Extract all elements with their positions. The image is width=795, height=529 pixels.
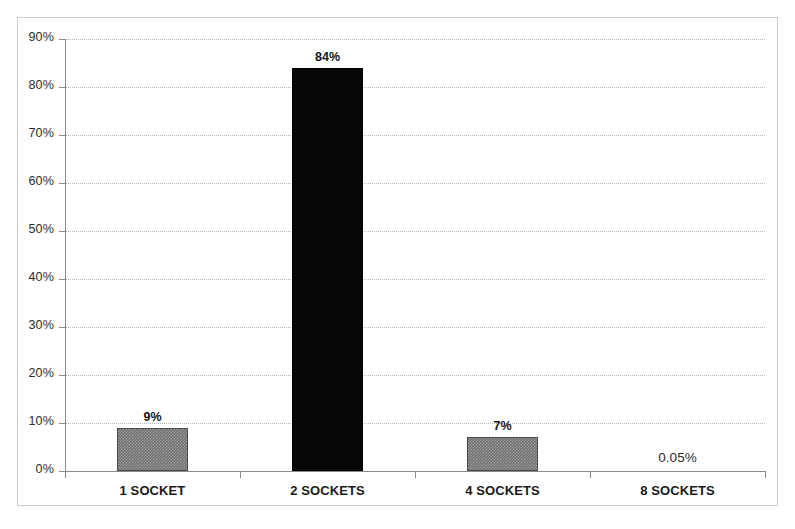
y-tick-label: 80% [8, 78, 54, 92]
gridline [65, 327, 765, 328]
x-tick-mark [415, 471, 416, 478]
bar-value-label: 9% [93, 410, 213, 424]
x-axis-category-label: 4 SOCKETS [423, 483, 583, 498]
gridline [65, 87, 765, 88]
y-tick-label: 10% [8, 414, 54, 428]
y-axis-line [65, 39, 66, 472]
bar-value-label: 84% [268, 50, 388, 64]
y-tick-mark [59, 231, 66, 232]
y-tick-label: 90% [8, 30, 54, 44]
y-tick-label: 0% [8, 462, 54, 476]
y-tick-label: 40% [8, 270, 54, 284]
x-axis-category-label: 2 SOCKETS [248, 483, 408, 498]
y-tick-label: 70% [8, 126, 54, 140]
gridline [65, 183, 765, 184]
x-axis-category-label: 8 SOCKETS [598, 483, 758, 498]
gridline [65, 39, 765, 40]
y-tick-mark [59, 423, 66, 424]
bar [467, 437, 538, 471]
x-tick-mark [590, 471, 591, 478]
y-tick-mark [59, 39, 66, 40]
bar [117, 428, 188, 471]
y-tick-label: 50% [8, 222, 54, 236]
gridline [65, 135, 765, 136]
bar [292, 68, 363, 471]
y-tick-mark [59, 327, 66, 328]
bar-value-label: 7% [443, 419, 563, 433]
y-tick-mark [59, 183, 66, 184]
x-tick-mark [65, 471, 66, 478]
y-tick-label: 60% [8, 174, 54, 188]
y-tick-mark [59, 87, 66, 88]
gridline [65, 279, 765, 280]
x-tick-mark [240, 471, 241, 478]
x-axis-category-label: 1 SOCKET [73, 483, 233, 498]
gridline [65, 375, 765, 376]
y-tick-mark [59, 135, 66, 136]
y-tick-label: 30% [8, 318, 54, 332]
x-tick-mark [765, 471, 766, 478]
y-tick-label: 20% [8, 366, 54, 380]
chart-page: { "chart_data": { "type": "bar", "title"… [0, 0, 795, 529]
bar-value-label: 0.05% [618, 450, 738, 465]
gridline [65, 231, 765, 232]
y-tick-mark [59, 375, 66, 376]
y-tick-mark [59, 279, 66, 280]
